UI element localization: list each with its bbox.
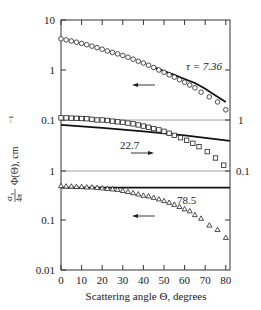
data-point-circle	[64, 38, 69, 43]
data-point-circle	[193, 86, 198, 91]
data-point-triangle	[207, 223, 212, 227]
data-point-circle	[84, 42, 89, 47]
data-point-triangle	[141, 193, 146, 197]
data-point-triangle	[120, 188, 125, 192]
arrow-left-icon	[132, 83, 155, 87]
x-tick-label: 60	[179, 274, 191, 286]
data-point-square	[85, 117, 89, 121]
data-point-triangle	[69, 184, 74, 188]
annotation-tau-7-36: τ = 7.36	[186, 60, 223, 72]
x-axis-label: Scattering angle Θ, degrees	[86, 290, 207, 302]
data-point-square	[213, 156, 217, 160]
data-point-circle	[136, 59, 141, 64]
right-y-tick-labels: 1 0.1	[236, 114, 250, 177]
data-point-circle	[167, 73, 172, 78]
data-point-square	[121, 120, 125, 124]
data-point-square	[146, 125, 150, 129]
data-point-circle	[151, 65, 156, 70]
data-point-square	[59, 116, 63, 120]
data-point-triangle	[215, 227, 220, 231]
x-tick-label: 70	[200, 274, 212, 286]
data-point-triangle	[125, 189, 130, 193]
data-point-circle	[69, 39, 74, 44]
data-point-square	[184, 138, 188, 142]
data-point-triangle	[167, 200, 172, 204]
data-point-square	[105, 118, 109, 122]
data-point-square	[157, 128, 161, 132]
x-tick-label: 20	[97, 274, 109, 286]
data-point-circle	[79, 41, 84, 46]
data-point-square	[110, 119, 114, 123]
data-point-circle	[131, 57, 136, 62]
data-point-circle	[207, 95, 212, 100]
y-tick-label: 10	[44, 14, 56, 26]
data-point-square	[115, 120, 119, 124]
y-tick-label: 0.1	[41, 114, 55, 126]
data-point-triangle	[59, 183, 64, 187]
data-point-square	[172, 133, 176, 137]
data-point-triangle	[79, 184, 84, 188]
annotation-tau-22-7: 22.7	[120, 139, 140, 151]
data-point-triangle	[151, 195, 156, 199]
arrow-left-icon	[132, 214, 155, 218]
data-point-triangle	[136, 192, 141, 196]
data-point-circle	[95, 45, 100, 50]
right-y-tick-label: 0.1	[236, 165, 250, 177]
data-point-triangle	[192, 212, 197, 216]
data-point-triangle	[64, 184, 69, 188]
data-point-square	[141, 124, 145, 128]
x-tick-label: 10	[76, 274, 88, 286]
data-point-square	[69, 116, 73, 120]
data-point-triangle	[187, 208, 192, 212]
data-point-square	[197, 144, 201, 148]
data-point-circle	[141, 61, 146, 66]
ylabel-exponent: −1	[7, 115, 15, 123]
plot-frame	[61, 20, 230, 270]
x-tick-label: 0	[58, 274, 64, 286]
data-point-triangle	[146, 194, 151, 198]
x-tick-label: 30	[117, 274, 129, 286]
data-point-square	[100, 118, 104, 122]
left-y-tick-labels: 10 1 0.1 1 0.1 0.01	[36, 14, 56, 276]
data-point-square	[136, 123, 140, 127]
data-point-square	[167, 131, 171, 135]
y-tick-label: 0.01	[36, 264, 55, 276]
data-point-triangle	[199, 216, 204, 220]
data-point-square	[95, 118, 99, 122]
data-point-square	[222, 163, 226, 167]
data-point-square	[205, 149, 209, 153]
data-point-circle	[110, 50, 115, 55]
y-tick-label: 1	[50, 165, 56, 177]
annotation-tau-78-5: 78.5	[177, 194, 197, 206]
data-point-square	[126, 121, 130, 125]
x-tick-label: 50	[159, 274, 171, 286]
data-point-circle	[157, 68, 162, 73]
data-point-triangle	[156, 197, 161, 201]
data-point-circle	[90, 44, 95, 49]
data-point-circle	[224, 107, 229, 112]
data-point-circle	[74, 40, 79, 45]
data-point-square	[90, 117, 94, 121]
data-point-circle	[177, 77, 182, 82]
data-point-circle	[172, 75, 177, 80]
data-point-circle	[182, 80, 187, 85]
ylabel-sigma: σ	[4, 196, 14, 201]
x-tick-labels: 0 10 20 30 40 50 60 70 80	[58, 274, 232, 286]
data-point-triangle	[223, 235, 228, 239]
data-point-square	[162, 129, 166, 133]
scattering-phase-function-chart: 0 10 20 30 40 50 60 70 80 Scattering ang…	[0, 0, 261, 310]
data-point-circle	[126, 55, 131, 60]
data-point-circle	[146, 63, 151, 68]
data-point-triangle	[74, 184, 79, 188]
arrow-right-icon	[131, 151, 154, 155]
data-point-circle	[187, 83, 192, 88]
data-point-triangle	[162, 198, 167, 202]
data-point-circle	[105, 49, 110, 54]
data-point-circle	[100, 47, 105, 52]
data-point-square	[191, 141, 195, 145]
data-point-square	[64, 116, 68, 120]
data-point-circle	[215, 100, 220, 105]
y-tick-label: 1	[50, 64, 56, 76]
y-axis-ticks	[61, 20, 230, 270]
x-tick-label: 80	[220, 274, 232, 286]
